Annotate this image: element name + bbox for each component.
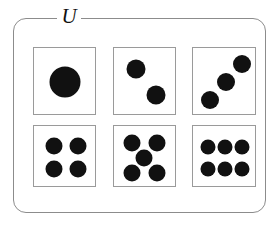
pip-dot [149, 135, 166, 152]
pip-dot [235, 162, 250, 177]
pip-dot [70, 161, 87, 178]
pip-dot [217, 73, 235, 91]
pip-dot [50, 67, 81, 98]
die-face-one [33, 47, 96, 115]
diagram-canvas: U [0, 0, 279, 225]
die-face-four [33, 125, 96, 187]
pip-dot [46, 161, 63, 178]
pip-dot [147, 86, 166, 105]
universal-set-label: U [57, 4, 81, 28]
pip-dot [201, 162, 216, 177]
pip-dot [218, 162, 233, 177]
pip-dot [124, 135, 141, 152]
pip-dot [235, 140, 250, 155]
pip-dot [124, 165, 141, 182]
pip-dot [70, 138, 87, 155]
pip-dot [218, 140, 233, 155]
pip-dot [127, 60, 146, 79]
pip-dot [136, 150, 153, 167]
pip-dot [201, 91, 219, 109]
die-face-five [113, 125, 176, 187]
die-face-two [113, 47, 176, 115]
die-face-grid [33, 47, 256, 187]
pip-dot [233, 55, 251, 73]
pip-dot [46, 138, 63, 155]
pip-dot [201, 140, 216, 155]
die-face-three [192, 47, 256, 115]
pip-dot [149, 165, 166, 182]
die-face-six [192, 125, 256, 187]
